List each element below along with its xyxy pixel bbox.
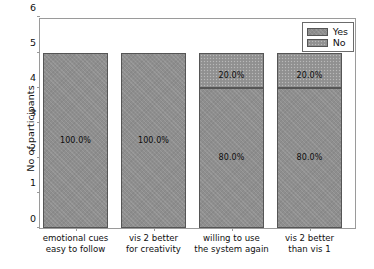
x-tick-mark-0 <box>76 228 77 231</box>
bar-group-vis2-than-vis1[interactable]: 80.0% 20.0% <box>277 53 342 229</box>
y-tick-label-1: 1 <box>30 179 36 189</box>
bar-segment-no[interactable]: 20.0% <box>277 53 342 88</box>
legend-swatch-no-icon <box>307 39 328 47</box>
bar-group-willing-to-use[interactable]: 80.0% 20.0% <box>199 53 264 229</box>
legend-label-yes: Yes <box>333 27 348 37</box>
x-tick-mark-1 <box>154 228 155 231</box>
y-tick-mark-5 <box>37 52 40 53</box>
x-tick-line2: than vis 1 <box>260 244 360 255</box>
legend-item-yes[interactable]: Yes <box>307 26 348 37</box>
x-tick-label-vis2-than-vis1: vis 2 better than vis 1 <box>260 233 360 254</box>
bar-segment-yes-label: 100.0% <box>138 136 169 145</box>
bar-segment-yes-label: 80.0% <box>297 153 323 162</box>
bar-segment-no-label: 20.0% <box>297 71 323 80</box>
y-tick-label-6: 6 <box>30 3 36 13</box>
y-tick-label-2: 2 <box>30 144 36 154</box>
bar-segment-yes-label: 100.0% <box>60 136 91 145</box>
y-tick-mark-3 <box>37 122 40 123</box>
x-tick-line1: vis 2 better <box>260 233 360 244</box>
bar-segment-yes[interactable]: 100.0% <box>43 53 108 229</box>
bar-segment-yes[interactable]: 100.0% <box>121 53 186 229</box>
y-tick-label-5: 5 <box>30 38 36 48</box>
legend-swatch-yes-icon <box>307 28 328 36</box>
y-tick-mark-0 <box>37 227 40 228</box>
y-tick-label-0: 0 <box>30 214 36 224</box>
legend-label-no: No <box>333 38 346 48</box>
y-tick-mark-1 <box>37 192 40 193</box>
x-tick-mark-3 <box>310 228 311 231</box>
bar-group-vis2-creativity[interactable]: 100.0% <box>121 53 186 229</box>
bar-group-emotional-cues[interactable]: 100.0% <box>43 53 108 229</box>
bar-segment-yes[interactable]: 80.0% <box>199 88 264 228</box>
chart-figure: No of participants 0 1 2 3 4 5 6 100.0% … <box>0 0 374 269</box>
bar-segment-no-label: 20.0% <box>219 71 245 80</box>
legend: Yes No <box>302 22 354 52</box>
plot-area: 0 1 2 3 4 5 6 100.0% emotional cues easy… <box>39 18 356 229</box>
legend-item-no[interactable]: No <box>307 37 348 48</box>
y-tick-label-3: 3 <box>30 108 36 118</box>
bar-segment-yes-label: 80.0% <box>219 153 245 162</box>
bar-segment-no[interactable]: 20.0% <box>199 53 264 88</box>
y-tick-label-4: 4 <box>30 73 36 83</box>
y-tick-mark-2 <box>37 157 40 158</box>
y-tick-mark-6 <box>37 16 40 17</box>
bar-segment-yes[interactable]: 80.0% <box>277 88 342 228</box>
x-tick-mark-2 <box>232 228 233 231</box>
y-tick-mark-4 <box>37 87 40 88</box>
